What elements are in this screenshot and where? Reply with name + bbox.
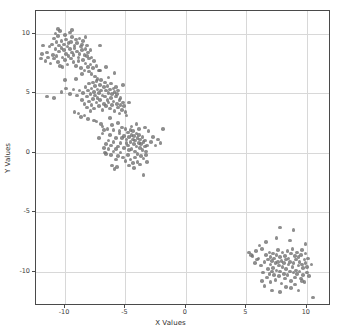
data-point — [69, 40, 73, 44]
data-point — [137, 127, 141, 131]
data-point — [291, 265, 295, 269]
y-tick-label: 0 — [26, 148, 30, 155]
data-point — [39, 57, 43, 61]
data-point — [72, 53, 76, 57]
y-tick-mark — [32, 271, 35, 272]
x-tick-label: 0 — [183, 309, 187, 316]
data-point — [102, 146, 106, 150]
y-tick-label: -10 — [19, 267, 30, 274]
data-point — [145, 160, 149, 164]
data-point — [300, 279, 304, 283]
data-point — [79, 66, 83, 70]
data-point — [154, 144, 158, 148]
data-point — [45, 51, 49, 55]
data-point — [118, 132, 122, 136]
data-point — [310, 263, 314, 267]
data-point — [269, 280, 273, 284]
data-point — [143, 126, 147, 130]
data-point — [284, 285, 288, 289]
y-tick-label: 10 — [22, 29, 30, 36]
data-point — [75, 41, 79, 45]
y-tick-mark — [32, 92, 35, 93]
data-point — [254, 249, 258, 253]
data-point — [260, 247, 264, 251]
data-point — [265, 276, 269, 280]
data-point — [127, 101, 131, 105]
data-point — [92, 59, 96, 63]
data-point — [311, 296, 315, 300]
data-point — [161, 127, 165, 131]
data-point — [85, 44, 89, 48]
data-point — [75, 94, 79, 98]
data-point — [95, 64, 99, 68]
data-point — [109, 82, 113, 86]
data-point — [46, 56, 50, 60]
data-point — [115, 92, 119, 96]
data-point — [143, 139, 147, 143]
data-point — [120, 136, 124, 140]
data-point — [49, 62, 53, 66]
x-tick-label: -10 — [59, 309, 70, 316]
data-point — [70, 28, 74, 32]
data-point — [276, 248, 280, 252]
data-point — [97, 136, 101, 140]
data-point — [283, 277, 287, 281]
data-point — [121, 83, 125, 87]
data-point — [126, 153, 130, 157]
data-point — [159, 141, 163, 145]
data-point — [122, 104, 126, 108]
data-point — [80, 72, 84, 76]
data-point — [277, 274, 281, 278]
data-point — [116, 89, 120, 93]
data-point — [61, 65, 65, 69]
data-point — [73, 110, 77, 114]
data-point — [288, 239, 292, 243]
data-point — [108, 116, 112, 120]
scatter-plot-figure: -10-50510 1050-5-10 X Values Y Values — [0, 0, 341, 336]
data-point — [293, 276, 297, 280]
data-point — [147, 129, 151, 133]
data-point — [89, 48, 93, 52]
data-point — [85, 95, 89, 99]
gridline-vertical — [186, 11, 187, 304]
data-point — [264, 240, 268, 244]
data-point — [144, 153, 148, 157]
gridline-vertical — [307, 11, 308, 304]
x-tick-label: 5 — [243, 309, 247, 316]
data-point — [133, 156, 137, 160]
data-point — [280, 282, 284, 286]
x-tick-label: 10 — [302, 309, 310, 316]
data-point — [115, 165, 119, 169]
data-point — [63, 78, 67, 82]
data-point — [101, 108, 105, 112]
data-point — [122, 146, 126, 150]
data-point — [145, 144, 149, 148]
data-point — [80, 43, 84, 47]
data-point — [124, 159, 128, 163]
y-axis-label: Y Values — [4, 143, 12, 173]
data-point — [149, 140, 153, 144]
data-point — [249, 253, 253, 257]
data-point — [297, 289, 301, 293]
data-point — [44, 59, 48, 63]
data-point — [107, 147, 111, 151]
y-tick-label: -5 — [24, 208, 30, 215]
data-point — [92, 107, 96, 111]
gridline-horizontal — [36, 153, 329, 154]
data-point — [113, 109, 117, 113]
data-point — [60, 90, 64, 94]
data-point — [292, 261, 296, 265]
data-point — [278, 226, 282, 230]
data-point — [116, 121, 120, 125]
data-point — [77, 59, 81, 63]
data-point — [52, 96, 56, 100]
gridline-vertical — [125, 11, 126, 304]
data-point — [289, 286, 293, 290]
x-axis-label: X Values — [0, 319, 341, 327]
data-point — [291, 247, 295, 251]
data-point — [78, 52, 82, 56]
data-point — [301, 273, 305, 277]
data-point — [109, 153, 113, 157]
data-point — [292, 228, 296, 232]
data-point — [101, 132, 105, 136]
